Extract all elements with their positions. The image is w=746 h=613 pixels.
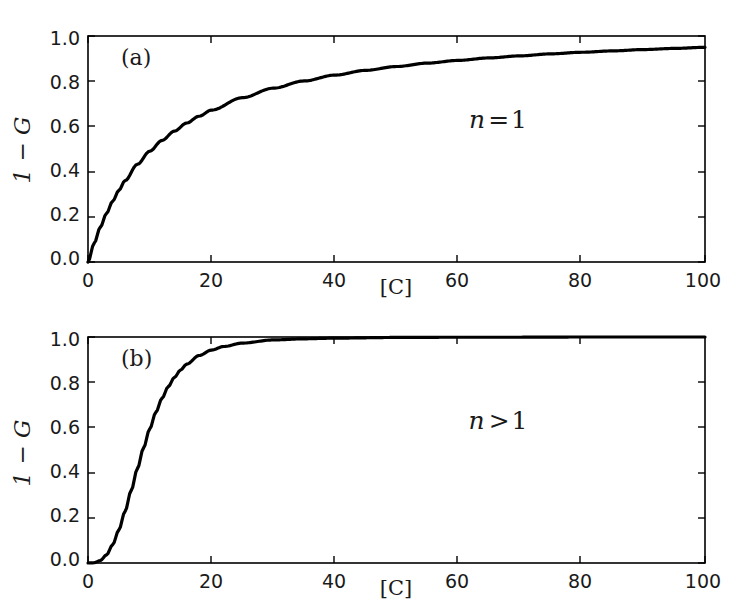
panel-a: 1 − G 1.0 0.8 0.6 0.4 0.2 0.0 0 20 40 60… bbox=[0, 0, 746, 305]
panel-b-plot: 1 − G 1.0 0.8 0.6 0.4 0.2 0.0 0 20 40 60… bbox=[0, 305, 746, 613]
panel-b-ytick-1.0: 1.0 bbox=[50, 328, 80, 350]
panel-b-xtick-80: 80 bbox=[568, 570, 592, 592]
panel-a-ytick-0.4: 0.4 bbox=[50, 159, 80, 181]
panel-a-ytick-0.0: 0.0 bbox=[50, 247, 80, 269]
panel-b-label: (b) bbox=[121, 346, 152, 371]
panel-a-xtick-40: 40 bbox=[322, 269, 346, 291]
panel-a-annotation: n=1 bbox=[469, 105, 527, 134]
panel-a-label: (a) bbox=[121, 45, 151, 70]
panel-a-xtick-0: 0 bbox=[82, 269, 94, 291]
panel-a-xtick-100: 100 bbox=[685, 269, 721, 291]
figure-container: 1 − G 1.0 0.8 0.6 0.4 0.2 0.0 0 20 40 60… bbox=[0, 0, 746, 613]
panel-b-xtick-60: 60 bbox=[445, 570, 469, 592]
panel-a-xtick-60: 60 bbox=[445, 269, 469, 291]
panel-a-ytick-0.2: 0.2 bbox=[50, 203, 80, 225]
panel-b-ylabel: 1 − G bbox=[9, 420, 35, 487]
panel-a-xtick-80: 80 bbox=[568, 269, 592, 291]
panel-a-ylabel: 1 − G bbox=[9, 117, 35, 184]
panel-a-xlabel: [C] bbox=[380, 275, 412, 299]
panel-a-frame bbox=[88, 36, 705, 262]
panel-a-curve bbox=[88, 47, 705, 262]
panel-b-ytick-0.0: 0.0 bbox=[50, 548, 80, 570]
panel-b-xtick-0: 0 bbox=[82, 570, 94, 592]
panel-b-annotation: n>1 bbox=[469, 406, 528, 435]
panel-b-xtick-20: 20 bbox=[199, 570, 223, 592]
panel-b-ytick-0.6: 0.6 bbox=[50, 416, 80, 438]
panel-b-ytick-0.2: 0.2 bbox=[50, 504, 80, 526]
panel-a-plot: 1 − G 1.0 0.8 0.6 0.4 0.2 0.0 0 20 40 60… bbox=[0, 0, 746, 305]
panel-b-xtick-40: 40 bbox=[322, 570, 346, 592]
panel-a-ytick-1.0: 1.0 bbox=[50, 27, 80, 49]
panel-a-ytick-0.6: 0.6 bbox=[50, 115, 80, 137]
panel-a-xtick-20: 20 bbox=[199, 269, 223, 291]
panel-b-ytick-0.4: 0.4 bbox=[50, 460, 80, 482]
panel-a-ytick-0.8: 0.8 bbox=[50, 71, 80, 93]
panel-b-ytick-0.8: 0.8 bbox=[50, 372, 80, 394]
panel-a-ticks bbox=[88, 36, 705, 262]
panel-b: 1 − G 1.0 0.8 0.6 0.4 0.2 0.0 0 20 40 60… bbox=[0, 305, 746, 613]
panel-b-curve bbox=[88, 337, 705, 563]
panel-b-xlabel: [C] bbox=[380, 576, 412, 600]
panel-b-xtick-100: 100 bbox=[685, 570, 721, 592]
